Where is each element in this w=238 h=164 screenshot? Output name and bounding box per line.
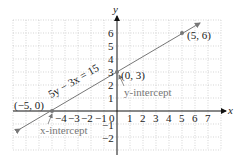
x-intercept-label: x-intercept [40,125,88,136]
x-tick-4: 4 [166,113,172,124]
x-tick-0: 0 [109,113,115,124]
y-tick-3: 3 [108,67,114,78]
x-tick-2: 2 [140,113,146,124]
y-tick-neg2: −2 [102,133,114,144]
x-tick-1: 1 [127,113,133,124]
x-tick-3: 3 [153,113,159,124]
y-axis-label: y [113,4,118,15]
x-tick-6: 6 [192,113,198,124]
x-tick-neg2: −2 [81,113,93,124]
x-tick-neg4: −4 [55,113,67,124]
point-5-6 [180,31,184,35]
y-tick-1: 1 [108,93,114,104]
point-label-5-6: (5, 6) [187,30,211,41]
point-label-neg5-0: (−5, 0) [14,100,44,111]
y-intercept-label: y-intercept [124,87,172,98]
point-label-0-3: (0, 3) [121,70,145,81]
point-0-3 [115,70,119,74]
x-tick-neg3: −3 [68,113,80,124]
y-tick-4: 4 [108,54,114,65]
y-tick-2: 2 [108,80,114,91]
x-intercept-pointer [48,114,52,124]
x-tick-5: 5 [179,113,185,124]
point-neg5-0 [50,109,54,113]
y-tick-6: 6 [108,28,114,39]
x-tick-7: 7 [205,113,211,124]
x-tick-neg1: −1 [95,113,107,124]
x-axis-label: x [228,105,233,116]
coordinate-plane [0,0,238,164]
y-tick-5: 5 [108,41,114,52]
